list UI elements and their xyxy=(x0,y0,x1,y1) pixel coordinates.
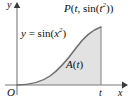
area-label-a-of-t: A(t) xyxy=(66,59,83,70)
y-axis-label: y xyxy=(7,0,11,10)
x-axis-arrow-icon xyxy=(122,82,128,89)
graph-canvas xyxy=(0,0,130,109)
curve-equation-close-paren: ) xyxy=(62,27,66,39)
point-label-sin: sin xyxy=(83,2,96,14)
area-label-close-paren: ) xyxy=(79,58,83,70)
area-label-a: A xyxy=(66,58,73,70)
origin-label: O xyxy=(7,87,15,98)
curve-equation-sin: sin xyxy=(38,27,51,39)
point-label-p: P(t, sin(t2)) xyxy=(64,3,113,14)
figure-container: P(t, sin(t2)) y = sin(x2) A(t) O t x y xyxy=(0,0,130,109)
x-axis-tick-label-t: t xyxy=(99,88,102,98)
point-label-close-paren: ) xyxy=(110,2,114,14)
y-axis-arrow-icon xyxy=(14,2,21,8)
curve-equation-equals: = xyxy=(26,27,38,39)
x-axis-label: x xyxy=(118,88,122,98)
point-label-p-letter: P xyxy=(64,2,71,14)
curve-equation-label: y = sin(x2) xyxy=(21,28,66,39)
